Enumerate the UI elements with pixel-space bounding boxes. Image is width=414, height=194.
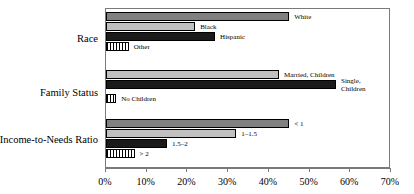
bar-value-label: 1.5–2 xyxy=(171,140,189,148)
bar-no-children xyxy=(106,94,116,103)
bar-married-children xyxy=(106,70,279,79)
bar-value-label: Single, Children xyxy=(340,77,376,93)
bar-value-label: Married, Children xyxy=(283,71,336,79)
x-axis-tick-label: 60% xyxy=(340,176,358,188)
x-axis-tick-label: 30% xyxy=(218,176,236,188)
x-axis-tick xyxy=(146,168,147,172)
bar-1-5-to-2 xyxy=(106,139,167,148)
category-label-race: Race xyxy=(77,33,98,44)
bar-value-label: > 2 xyxy=(139,150,150,158)
bar-single-children xyxy=(106,80,336,89)
x-axis-tick-label: 20% xyxy=(177,176,195,188)
plot-area: White Black Hispanic Other Married, Chil… xyxy=(105,8,390,168)
x-axis-tick xyxy=(105,168,106,172)
x-axis-tick xyxy=(227,168,228,172)
bar-value-label: White xyxy=(293,13,312,21)
bar-white xyxy=(106,12,289,21)
x-axis-tick-label: 0% xyxy=(98,176,111,188)
bar-chart: Race Family Status Income-to-Needs Ratio… xyxy=(0,0,414,194)
category-label-family-status: Family Status xyxy=(40,87,98,98)
x-axis-tick-label: 50% xyxy=(299,176,317,188)
bar-value-label: No Children xyxy=(120,95,157,103)
bar-other xyxy=(106,42,129,51)
x-axis-tick-label: 70% xyxy=(381,176,399,188)
bar-value-label: Hispanic xyxy=(219,33,246,41)
bar-value-label: Black xyxy=(199,23,217,31)
x-axis-line xyxy=(105,168,390,169)
x-axis-tick-label: 10% xyxy=(137,176,155,188)
category-label-income-to-needs-ratio: Income-to-Needs Ratio xyxy=(0,134,98,145)
bar-gt-2 xyxy=(106,149,135,158)
x-axis-tick xyxy=(268,168,269,172)
bar-lt-1 xyxy=(106,119,289,128)
bar-hispanic xyxy=(106,32,215,41)
bar-black xyxy=(106,22,195,31)
bar-value-label: Other xyxy=(133,43,151,51)
bar-value-label: < 1 xyxy=(293,120,304,128)
x-axis-tick xyxy=(349,168,350,172)
x-axis-tick-label: 40% xyxy=(259,176,277,188)
bar-value-label: 1–1.5 xyxy=(240,130,258,138)
x-axis-tick xyxy=(390,168,391,172)
bar-1-to-1-5 xyxy=(106,129,236,138)
x-axis-tick xyxy=(186,168,187,172)
x-axis-tick xyxy=(309,168,310,172)
